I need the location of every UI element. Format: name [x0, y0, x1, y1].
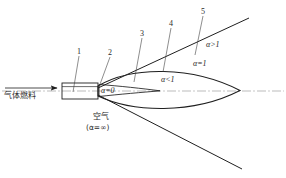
zone-alpha-lt1-label: α<1	[161, 76, 175, 84]
zone-alpha-zero-label: α=0	[101, 87, 115, 95]
air-sublabel: (α=∞)	[86, 124, 109, 132]
lower-air-boundary	[98, 95, 242, 169]
flame-structure-diagram: 气体燃料 空气 (α=∞) α=0 α<1 α=1 α>1 1 2 3 4 5	[0, 0, 286, 178]
callout-3-leader	[134, 38, 142, 82]
callout-1-label: 1	[77, 48, 81, 56]
air-label: 空气	[93, 113, 109, 121]
callout-2-label: 2	[108, 49, 112, 57]
callout-4-leader	[163, 28, 171, 72]
zone-alpha-gt1-label: α>1	[206, 41, 220, 49]
callout-5-label: 5	[201, 8, 205, 16]
callout-4-label: 4	[169, 20, 173, 28]
diagram-canvas	[0, 0, 286, 178]
callout-3-label: 3	[140, 30, 144, 38]
fuel-inlet-label: 气体燃料	[4, 92, 36, 100]
zone-alpha-eq1-label: α=1	[193, 60, 207, 68]
callout-5-leader	[195, 16, 203, 55]
